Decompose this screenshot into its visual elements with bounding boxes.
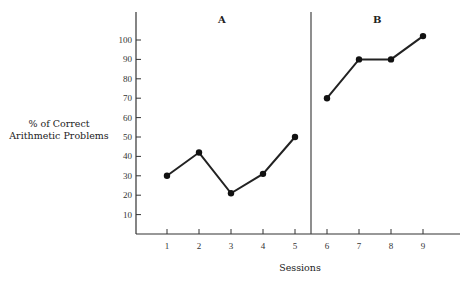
x-tick-label: 5 xyxy=(293,241,298,251)
phase-a-label: A xyxy=(218,14,226,25)
x-tick-label: 6 xyxy=(325,241,330,251)
y-tick-label: 20 xyxy=(123,190,133,200)
x-tick-label: 4 xyxy=(261,241,266,251)
data-point xyxy=(196,149,202,155)
data-point xyxy=(324,95,330,101)
y-tick-label: 70 xyxy=(123,93,133,103)
y-axis-label-line2: Arithmetic Problems xyxy=(4,130,114,142)
data-line-phase-b xyxy=(327,36,423,98)
data-line-phase-a xyxy=(167,137,295,193)
data-point xyxy=(420,33,426,39)
data-point xyxy=(164,173,170,179)
x-axis-label: Sessions xyxy=(250,262,350,273)
y-tick-label: 40 xyxy=(123,151,133,161)
data-point xyxy=(356,56,362,62)
x-tick-label: 8 xyxy=(389,241,394,251)
data-point xyxy=(388,56,394,62)
y-tick-label: 80 xyxy=(123,74,133,84)
y-tick-label: 90 xyxy=(123,54,133,64)
y-tick-label: 60 xyxy=(123,113,133,123)
x-tick-label: 2 xyxy=(197,241,202,251)
line-chart: 102030405060708090100123456789 xyxy=(0,0,474,286)
y-tick-label: 10 xyxy=(123,210,133,220)
y-axis-label-line1: % of Correct xyxy=(4,118,114,130)
y-tick-label: 100 xyxy=(119,35,133,45)
data-point xyxy=(292,134,298,140)
data-point xyxy=(228,190,234,196)
x-tick-label: 7 xyxy=(357,241,362,251)
y-axis-label: % of Correct Arithmetic Problems xyxy=(4,118,114,142)
phase-b-label: B xyxy=(373,14,381,25)
x-tick-label: 9 xyxy=(421,241,426,251)
x-tick-label: 1 xyxy=(165,241,170,251)
y-tick-label: 30 xyxy=(123,171,133,181)
data-point xyxy=(260,171,266,177)
y-tick-label: 50 xyxy=(123,132,133,142)
x-tick-label: 3 xyxy=(229,241,234,251)
